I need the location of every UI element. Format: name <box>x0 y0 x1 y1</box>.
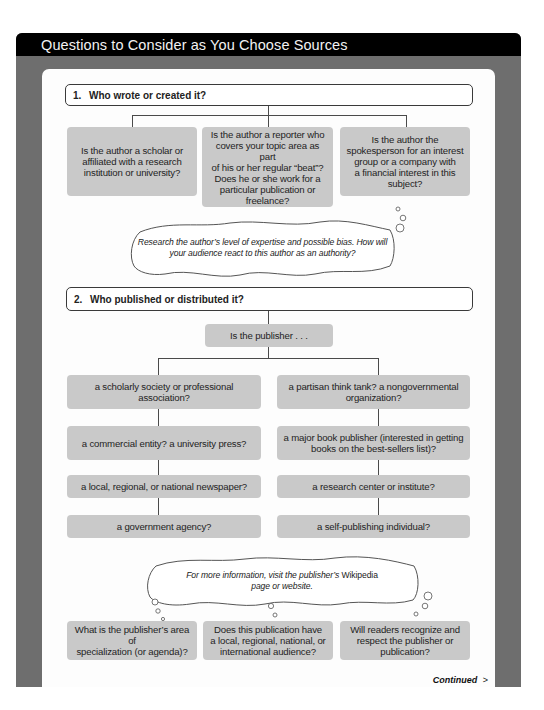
thought-cloud-2-text: For more information, visit the publishe… <box>147 570 417 592</box>
chevron-right-icon: > <box>483 675 488 685</box>
thought-cloud-2-text-segment: For more information, visit the publishe… <box>186 570 341 580</box>
continued-label: Continued <box>433 675 478 685</box>
thought-cloud-2-line: page or website. <box>147 581 417 592</box>
wikipedia-term: Wikipedia <box>341 570 377 580</box>
publisher-followup-box: Does this publication have a local, regi… <box>203 621 333 660</box>
thought-cloud-2-icon <box>0 0 544 710</box>
thought-cloud-2-line: For more information, visit the publishe… <box>147 570 417 581</box>
publisher-followup-box: What is the publisher’s area of speciali… <box>67 621 197 660</box>
publisher-followup-box: Will readers recognize and respect the p… <box>340 621 470 660</box>
continued-link[interactable]: Continued > <box>430 675 488 685</box>
